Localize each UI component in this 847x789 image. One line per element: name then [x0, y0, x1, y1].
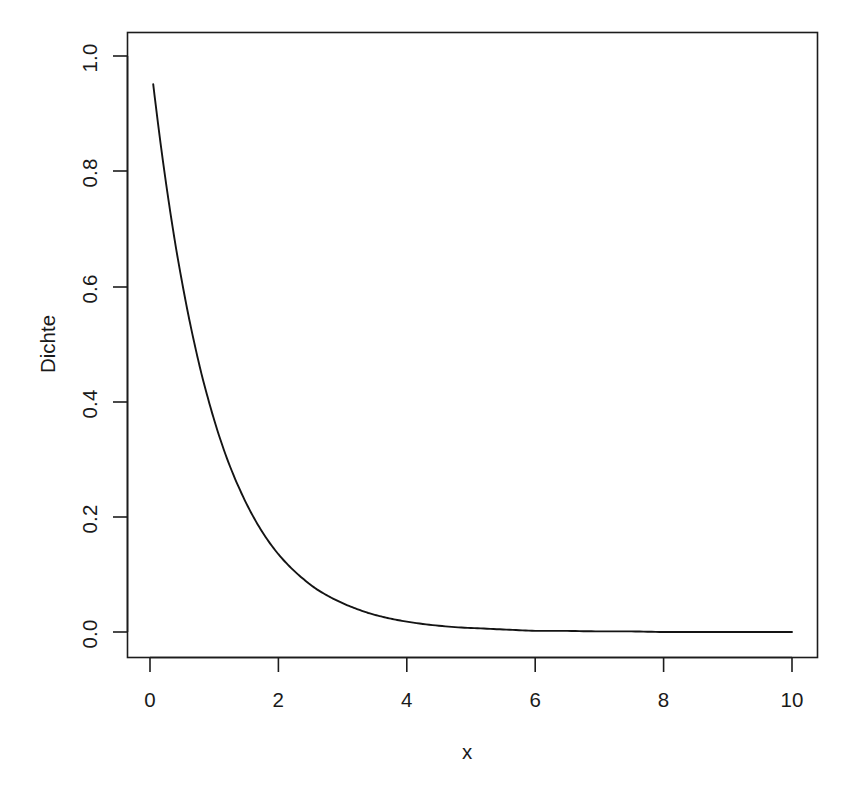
x-axis-title: x: [427, 740, 507, 764]
y-tick-label-1.0: 1.0: [78, 38, 102, 78]
x-tick-label-6: 6: [515, 688, 555, 712]
x-tick-label-4: 4: [387, 688, 427, 712]
x-tick-label-8: 8: [644, 688, 684, 712]
y-tick-label-0.6: 0.6: [78, 269, 102, 309]
y-tick-label-0.4: 0.4: [78, 384, 102, 424]
y-axis-title: Dichte: [36, 299, 60, 389]
plot-frame-box: [128, 33, 818, 658]
density-curve: [153, 84, 792, 632]
chart-plot-area: 1.0 0.8 0.6 0.4 0.2 0.0 0 2 4 6 8 10 Dic…: [0, 0, 847, 789]
y-tick-label-0.0: 0.0: [78, 614, 102, 654]
x-axis-ticks: [150, 658, 792, 673]
x-tick-label-0: 0: [130, 688, 170, 712]
y-tick-label-0.2: 0.2: [78, 499, 102, 539]
x-tick-label-2: 2: [258, 688, 298, 712]
y-tick-label-0.8: 0.8: [78, 153, 102, 193]
chart-canvas: [0, 0, 847, 789]
x-tick-label-10: 10: [772, 688, 812, 712]
y-axis-ticks: [113, 56, 128, 632]
